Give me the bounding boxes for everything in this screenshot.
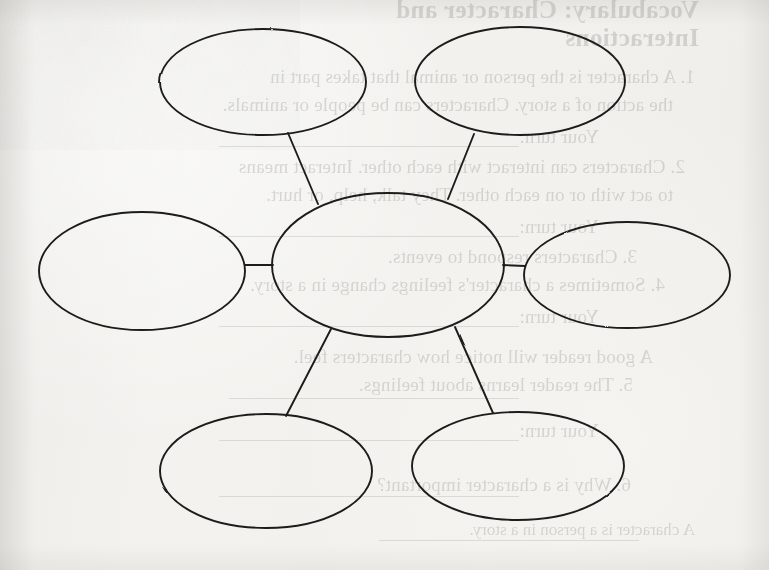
connector-right-to-center <box>503 265 525 266</box>
bubble-right[interactable] <box>524 222 730 328</box>
connector-top-left-to-center <box>288 133 318 204</box>
bubble-bottom-right[interactable] <box>412 412 624 520</box>
bubble-top-left[interactable] <box>160 29 366 135</box>
connector-bottom-left-to-center <box>286 329 331 416</box>
connector-top-right-to-center <box>448 134 474 199</box>
scanned-page: Vocabulary: Character and Interactions 1… <box>0 0 769 570</box>
concept-map-diagram <box>0 0 769 570</box>
connector-bottom-right-to-center <box>455 327 493 413</box>
bubble-center[interactable] <box>272 193 504 337</box>
bubble-bottom-left[interactable] <box>160 414 372 528</box>
bubble-top-right[interactable] <box>415 27 625 135</box>
bubble-left[interactable] <box>39 212 245 330</box>
